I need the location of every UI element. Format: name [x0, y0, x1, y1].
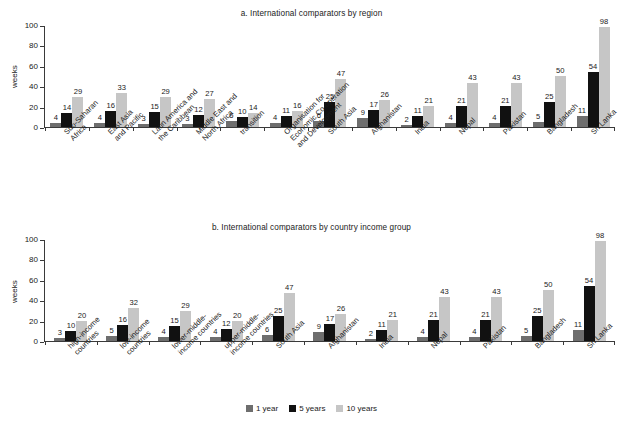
- panel-a-title: a. International comparators by region: [0, 9, 623, 18]
- bar: 4: [94, 123, 105, 127]
- y-tick-label: 40: [29, 297, 38, 305]
- y-tick-label: 80: [29, 42, 38, 50]
- bar-value-label: 33: [118, 84, 126, 92]
- bar: 4: [50, 123, 61, 127]
- bar: 4: [270, 123, 281, 127]
- panel-b-category-labels: high-incomecountrieslow-incomecountriesl…: [44, 342, 615, 432]
- bar-value-label: 4: [273, 114, 277, 122]
- bar-value-label: 10: [67, 322, 75, 330]
- bar-value-label: 29: [74, 88, 82, 96]
- bar-value-label: 2: [405, 116, 409, 124]
- bar-value-label: 50: [544, 281, 552, 289]
- bar-value-label: 11: [574, 321, 582, 329]
- bar: 3: [182, 124, 193, 127]
- bar-value-label: 50: [556, 67, 564, 75]
- bar-value-label: 27: [205, 90, 213, 98]
- bar-value-label: 5: [110, 327, 114, 335]
- figure-container: a. International comparators by region w…: [0, 0, 623, 433]
- bar-value-label: 29: [181, 302, 189, 310]
- bar-value-label: 54: [589, 63, 597, 71]
- bar-group: 42143: [408, 240, 460, 341]
- bar-value-label: 29: [161, 88, 169, 96]
- bar-value-label: 21: [429, 311, 437, 319]
- bar: 2: [365, 339, 376, 341]
- bar: 4: [417, 337, 428, 341]
- bar-value-label: 26: [381, 91, 389, 99]
- bar-value-label: 4: [448, 114, 452, 122]
- panel-b-plot-area: 020406080100 310205163241529412206254791…: [44, 240, 615, 342]
- bar: 3: [138, 124, 149, 127]
- bar-value-label: 16: [118, 316, 126, 324]
- bar-value-label: 15: [150, 103, 158, 111]
- bar: 4: [469, 337, 480, 341]
- y-tick-label: 20: [29, 104, 38, 112]
- bar: 3: [54, 338, 65, 341]
- y-tick-label: 100: [25, 236, 38, 244]
- panel-a-category-labels: Sub-SaharanAfricaEast Asiaand PacificLat…: [44, 128, 615, 218]
- y-tick: [40, 322, 44, 323]
- bar-value-label: 21: [389, 311, 397, 319]
- y-tick: [40, 87, 44, 88]
- bar-value-label: 16: [293, 102, 301, 110]
- y-tick: [40, 108, 44, 109]
- bar-value-label: 21: [481, 311, 489, 319]
- y-tick: [40, 301, 44, 302]
- legend-label: 1 year: [256, 404, 278, 413]
- legend-item: 5 years: [289, 404, 325, 413]
- bar-value-label: 11: [282, 107, 290, 115]
- bar-value-label: 17: [370, 101, 378, 109]
- bar-value-label: 43: [440, 288, 448, 296]
- bar: 11: [577, 116, 588, 127]
- bar-value-label: 4: [472, 328, 476, 336]
- bar-value-label: 21: [457, 97, 465, 105]
- bar: 2: [401, 125, 412, 127]
- bar-value-label: 4: [161, 328, 165, 336]
- bar-value-label: 98: [600, 18, 608, 26]
- bar: 6: [262, 335, 273, 341]
- bar-value-label: 47: [285, 284, 293, 292]
- bar-value-label: 43: [512, 74, 520, 82]
- bar-value-label: 4: [213, 328, 217, 336]
- bar-value-label: 2: [369, 330, 373, 338]
- bar-value-label: 6: [265, 326, 269, 334]
- bar-value-label: 9: [361, 109, 365, 117]
- bar: 5: [521, 336, 532, 341]
- bar: 4: [210, 337, 221, 341]
- panel-b-title: b. International comparators by country …: [0, 223, 623, 232]
- legend-swatch-icon: [246, 405, 253, 412]
- y-tick: [40, 240, 44, 241]
- bar: 54: [584, 286, 595, 341]
- bar: 11: [573, 330, 584, 341]
- bar-value-label: 16: [107, 102, 115, 110]
- bar-value-label: 21: [424, 97, 432, 105]
- legend-item: 1 year: [246, 404, 278, 413]
- bar-group: 21121: [356, 240, 408, 341]
- y-tick: [40, 26, 44, 27]
- bar-value-label: 26: [337, 305, 345, 313]
- bar-value-label: 98: [596, 232, 604, 240]
- bar-value-label: 17: [326, 315, 334, 323]
- bar-value-label: 21: [501, 97, 509, 105]
- bar-value-label: 11: [414, 107, 422, 115]
- bar-group: 42143: [440, 26, 484, 127]
- bar-value-label: 25: [274, 307, 282, 315]
- y-tick-label: 60: [29, 277, 38, 285]
- bar-value-label: 14: [63, 104, 71, 112]
- y-tick-label: 0: [34, 338, 38, 346]
- bar-value-label: 9: [317, 323, 321, 331]
- legend-swatch-icon: [336, 405, 343, 412]
- bar: 5: [533, 122, 544, 127]
- panel-b-bar-groups: 3102051632415294122062547917262112142143…: [45, 240, 615, 341]
- bar-value-label: 5: [536, 113, 540, 121]
- bar-value-label: 15: [170, 317, 178, 325]
- bar-value-label: 11: [378, 321, 386, 329]
- bar-value-label: 5: [524, 327, 528, 335]
- bar: 4: [158, 337, 169, 341]
- legend-item: 10 years: [336, 404, 377, 413]
- chart-panel-a: a. International comparators by region w…: [0, 0, 623, 215]
- panel-a-y-axis-label: weeks: [10, 65, 19, 88]
- bar-value-label: 12: [222, 320, 230, 328]
- bar: 9: [313, 332, 324, 341]
- bar-value-label: 25: [533, 307, 541, 315]
- bar: 4: [445, 123, 456, 127]
